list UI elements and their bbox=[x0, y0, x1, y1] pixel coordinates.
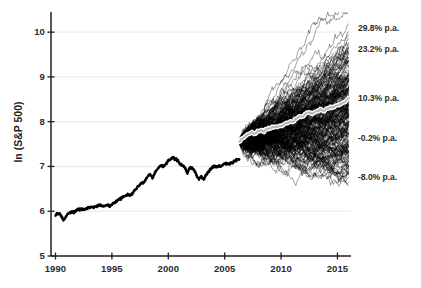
y-tick-label: 10 bbox=[25, 26, 45, 37]
annotation-flat-path: -0.2% p.a. bbox=[358, 133, 397, 143]
y-tick-label: 7 bbox=[25, 160, 45, 171]
y-tick-label: 6 bbox=[25, 205, 45, 216]
annotation-high-path: 23.2% p.a. bbox=[358, 44, 399, 54]
y-axis-label: ln (S&P 500) bbox=[12, 82, 24, 182]
x-tick-label: 2015 bbox=[317, 263, 357, 274]
x-tick-label: 2010 bbox=[261, 263, 301, 274]
x-tick-label: 2000 bbox=[148, 263, 188, 274]
x-tick-label: 2005 bbox=[205, 263, 245, 274]
chart-figure: ln (S&P 500) 5678910 1990199520002005201… bbox=[0, 0, 421, 288]
y-tick-label: 8 bbox=[25, 116, 45, 127]
simulated-paths-fan bbox=[239, 0, 348, 186]
x-tick-label: 1995 bbox=[92, 263, 132, 274]
x-tick-label: 1990 bbox=[36, 263, 76, 274]
annotation-best-case-path: 29.8% p.a. bbox=[358, 23, 399, 33]
y-tick-label: 9 bbox=[25, 71, 45, 82]
y-tick-label: 5 bbox=[25, 250, 45, 261]
annotation-median-path: 10.3% p.a. bbox=[358, 93, 399, 103]
annotation-worst-case-path: -8.0% p.a. bbox=[358, 172, 397, 182]
